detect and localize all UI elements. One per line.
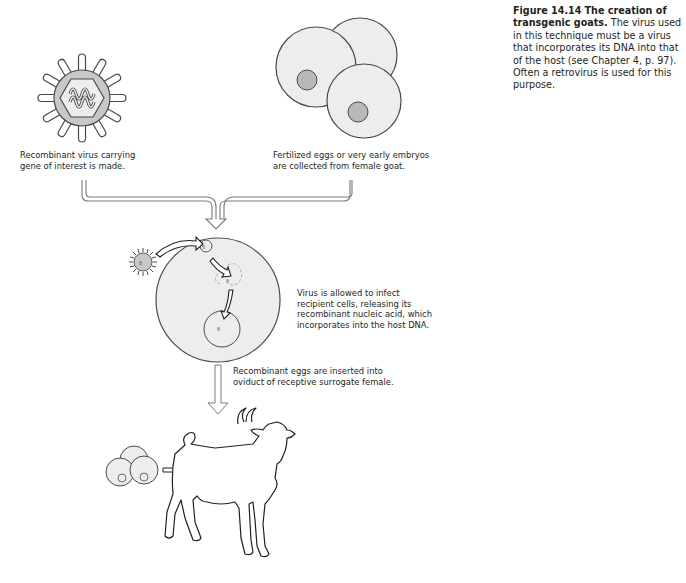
down-arrow-icon <box>208 365 228 414</box>
step-infection-label: Virus is allowed to infect recipient cel… <box>297 288 432 330</box>
step-implant-label-line: oviduct of receptive surrogate female. <box>233 377 394 388</box>
small-virus-icon: ʬ <box>129 248 157 276</box>
step-infection-label-line: recipient cells, releasing its <box>297 299 432 310</box>
recipient-cell: ʬ ʬ ʬ <box>156 238 280 362</box>
step-implant-label-line: Recombinant eggs are inserted into <box>233 366 394 377</box>
recombinant-eggs-icon <box>106 446 158 486</box>
step-virus-label-line: Recombinant virus carrying <box>20 150 135 161</box>
step-virus-label-line: gene of interest is made. <box>20 161 135 172</box>
step-infection-label-line: incorporates into the host DNA. <box>297 320 432 331</box>
step-infection-label-line: Virus is allowed to infect <box>297 288 432 299</box>
svg-text:ʬ: ʬ <box>226 277 229 284</box>
step-eggs-label-line: are collected from female goat. <box>273 161 429 172</box>
svg-text:ʬ: ʬ <box>217 325 220 332</box>
surrogate-goat-illustration <box>165 408 295 557</box>
svg-text:ʬ: ʬ <box>139 259 142 266</box>
step-virus-label: Recombinant virus carrying gene of inter… <box>20 150 135 171</box>
fertilized-eggs-icon <box>276 18 401 138</box>
step-implant-label: Recombinant eggs are inserted into ovidu… <box>233 366 394 387</box>
merge-bracket-arrow <box>82 180 352 229</box>
step-eggs-label-line: Fertilized eggs or very early embryos <box>273 150 429 161</box>
step-eggs-label: Fertilized eggs or very early embryos ar… <box>273 150 429 171</box>
step-infection-label-line: recombinant nucleic acid, which <box>297 309 432 320</box>
recombinant-virus-icon <box>38 54 126 142</box>
